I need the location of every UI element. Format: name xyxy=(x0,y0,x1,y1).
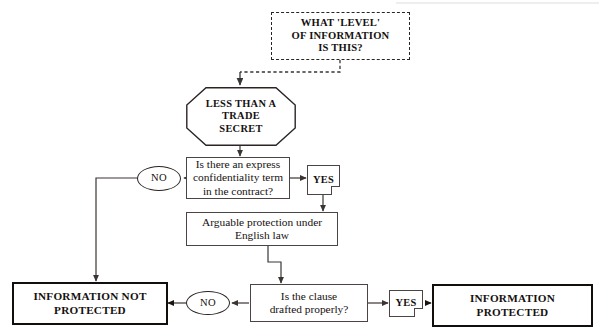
node-express-confidentiality-term: Is there an express confidentiality term… xyxy=(186,157,290,199)
node-level-of-information: WHAT 'LEVEL' OF INFORMATION IS THIS? xyxy=(271,12,410,60)
wire-title-to-octagon xyxy=(240,60,340,72)
node-information-protected: INFORMATION PROTECTED xyxy=(432,284,593,327)
folded-corner-icon xyxy=(331,186,340,195)
folded-corner-icon xyxy=(414,308,423,317)
wire-no1-to-not-protected xyxy=(96,178,137,281)
decision-label-yes-1-text: YES xyxy=(313,174,334,186)
decision-label-no-1: NO xyxy=(137,166,181,191)
decision-label-yes-1: YES xyxy=(307,165,340,195)
node-arguable-protection: Arguable protection under English law xyxy=(186,212,338,246)
node-less-than-trade-secret-label: LESS THAN A TRADE SECRET xyxy=(206,98,277,135)
node-information-not-protected: INFORMATION NOT PROTECTED xyxy=(12,282,168,325)
decision-label-yes-2: YES xyxy=(389,290,423,317)
decision-label-no-2: NO xyxy=(186,291,230,315)
scan-artifact-line xyxy=(396,2,599,4)
node-clause-drafted-properly: Is the clause drafted properly? xyxy=(250,284,368,322)
node-less-than-trade-secret: LESS THAN A TRADE SECRET xyxy=(186,87,296,146)
wire-arguable-to-clause xyxy=(268,246,281,283)
flowchart-diagram: WHAT 'LEVEL' OF INFORMATION IS THIS? LES… xyxy=(0,0,599,334)
